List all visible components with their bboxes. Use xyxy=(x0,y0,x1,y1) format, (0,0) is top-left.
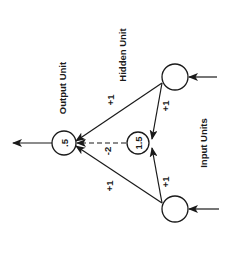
edge-input-bottom-to-hidden xyxy=(152,148,162,203)
weight-input-bottom-to-hidden: +1 xyxy=(160,176,171,188)
weight-input-bottom-to-output: +1 xyxy=(104,180,115,192)
edge-input-bottom-to-output xyxy=(76,146,162,203)
output-unit-label: Output Unit xyxy=(57,61,68,114)
weight-hidden-to-output: -2 xyxy=(102,147,113,155)
input-unit-bottom-node xyxy=(162,196,188,222)
xor-network-diagram: .5 1.5 Output Unit Hidden Unit Input Uni… xyxy=(0,0,232,259)
weight-input-top-to-hidden: +1 xyxy=(160,100,171,112)
edge-input-top-to-output xyxy=(76,83,162,141)
output-unit-value: .5 xyxy=(59,138,70,147)
input-unit-top-node xyxy=(162,64,188,90)
input-units-label: Input Units xyxy=(198,118,209,168)
weight-input-top-to-output: +1 xyxy=(105,94,116,106)
hidden-unit-value: 1.5 xyxy=(133,136,144,150)
hidden-unit-label: Hidden Unit xyxy=(117,28,128,82)
